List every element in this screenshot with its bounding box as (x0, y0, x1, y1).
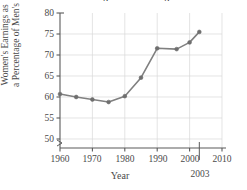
data-point-markers (58, 30, 201, 104)
axis-lines (60, 13, 226, 148)
data-line-series-1 (60, 32, 199, 102)
plot-area (0, 0, 247, 190)
chart-figure: Women's Earnings as a Percentage of Men'… (0, 0, 247, 190)
